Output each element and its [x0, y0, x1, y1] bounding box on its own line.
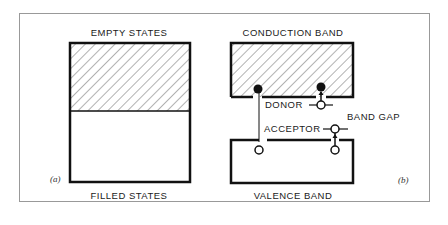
empty-states-label: EMPTY STATES — [91, 27, 168, 38]
conduction-band-label: CONDUCTION BAND — [243, 27, 344, 38]
acceptor-state-circle — [331, 125, 339, 133]
panel-a-tag: (a) — [50, 174, 61, 184]
panel-b-tag: (b) — [398, 175, 409, 185]
panel-a: EMPTY STATES FILLED STATES (a) — [50, 27, 190, 201]
band-gap-label: BAND GAP — [347, 111, 400, 122]
acceptor-label: ACCEPTOR — [264, 123, 321, 134]
empty-states-region — [70, 43, 190, 111]
acceptor-arrow-head-icon — [333, 134, 338, 138]
filled-states-label: FILLED STATES — [91, 190, 168, 201]
band-diagram: EMPTY STATES FILLED STATES (a) CONDUCTIO… — [0, 0, 448, 225]
hole-circle-right — [331, 146, 339, 154]
electron-dot-left — [254, 85, 263, 94]
donor-state-circle — [317, 101, 325, 109]
conduction-band-region — [231, 43, 353, 97]
electron-dot-donor — [317, 83, 326, 92]
valence-band-label: VALENCE BAND — [254, 190, 333, 201]
donor-label: DONOR — [265, 99, 303, 110]
hole-circle-left — [255, 146, 263, 154]
panel-b: CONDUCTION BAND DONOR BAND GAP ACCEPTOR … — [231, 27, 409, 201]
